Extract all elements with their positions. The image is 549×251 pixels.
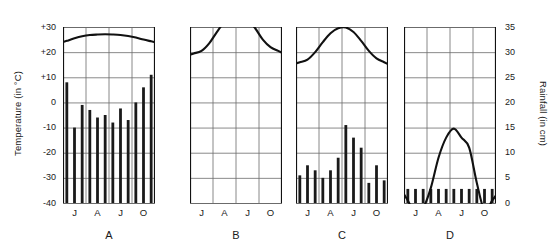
rainfall-bar [483,189,486,203]
left-tick-label: -20 [26,148,56,157]
month-tick-label: J [114,208,128,218]
right-tick-label: 25 [505,73,535,82]
left-tick-label: -30 [26,173,56,182]
gridlines [63,27,155,204]
panel-a [63,27,155,204]
left-tick-label: -10 [26,123,56,132]
right-axis-title: Rainfall (in cm) [538,34,549,194]
rainfall-bar [414,189,417,203]
month-tick-label: O [137,208,151,218]
panel-letter: B [221,229,251,241]
rainfall-bar [314,170,317,203]
rainfall-bar [104,115,107,203]
gridlines [296,27,388,204]
plot-area [404,27,496,204]
rainfall-bar [437,189,440,203]
rainfall-bar [142,87,145,203]
left-tick-label: +30 [26,23,56,32]
plot-area [63,27,155,204]
rainfall-bar [298,175,301,203]
rainfall-bar [468,189,471,203]
rainfall-bar [460,189,463,203]
month-tick-label: J [241,208,255,218]
month-tick-label: O [264,208,278,218]
rainfall-bar [360,148,363,203]
right-tick-label: 10 [505,148,535,157]
month-tick-label: O [478,208,492,218]
month-tick-label: J [301,208,315,218]
left-tick-label: -40 [26,199,56,208]
month-tick-label: A [432,208,446,218]
gridlines [404,27,496,204]
rainfall-bar [329,170,332,203]
rainfall-bar [306,165,309,203]
left-tick-label: +10 [26,73,56,82]
month-tick-label: A [91,208,105,218]
rainfall-bar [321,178,324,203]
rainfall-bar [73,128,76,203]
rainfall-bar [337,158,340,203]
rainfall-bar [344,125,347,203]
left-tick-label: +20 [26,48,56,57]
rainfall-bar [134,102,137,203]
rainfall-bar [65,82,68,203]
rainfall-bar [88,110,91,203]
right-tick-label: 0 [505,199,535,208]
rainfall-bar [111,123,114,203]
month-tick-label: A [218,208,232,218]
month-tick-label: J [68,208,82,218]
month-tick-label: O [370,208,384,218]
rainfall-bar [383,180,386,203]
right-tick-label: 30 [505,48,535,57]
rainfall-bar [452,189,455,203]
plot-area [190,27,282,204]
left-tick-label: 0 [26,98,56,107]
panel-letter: D [435,229,465,241]
rainfall-bar [81,105,84,203]
month-tick-label: A [324,208,338,218]
rainfall-bar [352,138,355,203]
month-tick-label: J [347,208,361,218]
rainfall-bar [96,118,99,203]
panel-letter: A [94,229,124,241]
month-tick-label: J [195,208,209,218]
rainfall-bar [445,189,448,203]
rainfall-bar [422,189,425,203]
panel-d [404,27,496,204]
rainfall-bar [119,108,122,203]
panel-letter: C [327,229,357,241]
month-tick-label: J [455,208,469,218]
left-axis-title: Temperature (in °C) [12,34,23,194]
panel-c [296,27,388,204]
month-tick-label: J [409,208,423,218]
panel-b [190,27,282,204]
right-tick-label: 35 [505,23,535,32]
right-tick-label: 20 [505,98,535,107]
rainfall-bar [150,75,153,203]
plot-area [296,27,388,204]
rainfall-bar [367,183,370,203]
right-tick-label: 5 [505,173,535,182]
rainfall-bar [127,120,130,203]
gridlines [190,27,282,204]
rainfall-bar [375,165,378,203]
right-tick-label: 15 [505,123,535,132]
